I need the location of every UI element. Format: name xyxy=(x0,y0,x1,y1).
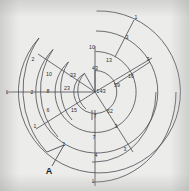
label-ring1-lower-left: 15 xyxy=(71,107,77,113)
label-ring2-upper-left: 10 xyxy=(46,71,52,77)
spiral-tail-ring1 xyxy=(78,73,86,109)
label-ring1-right: 59 xyxy=(114,82,120,88)
spoke-lower-right xyxy=(95,92,133,152)
spiral-tail-outer xyxy=(23,38,47,152)
label-ring2-left: 8 xyxy=(47,88,50,94)
radial-spokes xyxy=(6,20,152,186)
spoke-lower-left xyxy=(36,92,95,129)
label-ring4-lower-left: 1 xyxy=(63,141,66,147)
label-ring4-bottom: 4 xyxy=(95,152,98,158)
annotation-label-a: A xyxy=(46,166,53,176)
label-ring3-bottom: 7 xyxy=(93,134,96,140)
label-ring2-lower-right: 62 xyxy=(107,108,113,114)
label-ring2-lower-left: 6 xyxy=(47,107,50,113)
label-ring3-upper-right: 3 xyxy=(126,34,129,40)
label-ring2-upper-right: 13 xyxy=(106,57,112,63)
figure-canvas: 143 43 33 23 15 59 10 10 8 6 7 62 16 13 … xyxy=(0,0,189,191)
spiral-arcs xyxy=(18,11,180,182)
label-ring3-lower-right-a: 3 xyxy=(115,123,118,129)
label-ring4-left: 1 xyxy=(6,89,9,95)
spoke-top-right-outer xyxy=(115,20,134,57)
label-ring2-top: 10 xyxy=(89,44,95,50)
label-ring2-right: 16 xyxy=(128,73,134,79)
value-labels: 143 43 33 23 15 59 10 10 8 6 7 62 16 13 … xyxy=(6,14,150,184)
label-ring3-lower-right-b: 3 xyxy=(124,146,127,152)
label-ring1-top: 43 xyxy=(92,65,98,71)
label-ring1-left: 23 xyxy=(64,85,70,91)
label-center: 143 xyxy=(96,88,105,94)
label-ring3-upper-left: 2 xyxy=(32,56,35,62)
label-ring2-bottom: 7 xyxy=(94,113,97,119)
label-ring3-lower-left: 1 xyxy=(34,123,37,129)
label-ring3-top: 1 xyxy=(135,14,138,20)
spiral-diagram-svg: 143 43 33 23 15 59 10 10 8 6 7 62 16 13 … xyxy=(0,0,189,191)
label-ring1-upper-left: 33 xyxy=(70,72,76,78)
label-ring4-bottom-tail: 1 xyxy=(92,179,95,184)
label-ring3-left: 2 xyxy=(31,89,34,95)
label-ring3-right: 3 xyxy=(147,56,150,62)
